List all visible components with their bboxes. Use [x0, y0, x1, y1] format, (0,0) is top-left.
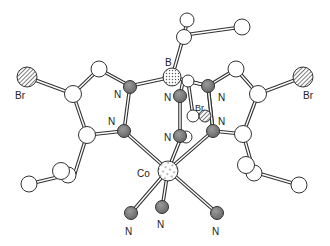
carbon-atom: [250, 86, 267, 103]
label-n-bottom-left: N: [125, 226, 132, 237]
bromine-atom-right: [293, 67, 313, 87]
nitrogen-atom: [211, 207, 224, 220]
carbon-atom: [228, 61, 244, 77]
carbon-atom: [21, 176, 37, 192]
carbon-atom: [65, 86, 82, 103]
label-n-right-upper: N: [218, 92, 225, 103]
label-n-center-upper: N: [164, 92, 171, 103]
label-br-center: Br: [195, 103, 204, 113]
carbon-atom: [235, 126, 252, 143]
carbon-atom: [79, 127, 96, 144]
bromine-atom-left: [17, 67, 37, 87]
bonds: [27, 22, 303, 213]
carbon-atom: [180, 13, 194, 27]
label-n-center-lower: N: [164, 132, 171, 143]
carbon-atom: [238, 157, 255, 174]
carbon-atom: [53, 163, 70, 180]
label-n-bottom-right: N: [212, 226, 219, 237]
label-n-right-lower: N: [218, 116, 225, 127]
molecule-diagram: B Co Br Br Br N N N N N N N N N: [0, 0, 330, 246]
boron-atom: [163, 68, 181, 86]
nitrogen-atom: [174, 130, 187, 143]
carbon-atom: [177, 30, 192, 45]
label-br-right: Br: [303, 90, 314, 101]
cobalt-atom: [158, 161, 178, 181]
label-boron: B: [165, 57, 172, 68]
nitrogen-atom: [202, 80, 215, 93]
label-br-left: Br: [15, 90, 26, 101]
carbon-atom: [291, 177, 307, 193]
nitrogen-atom: [156, 201, 169, 214]
carbon-atom: [234, 19, 250, 35]
nitrogen-atom: [124, 81, 137, 94]
label-n-left-lower: N: [108, 116, 115, 127]
label-cobalt: Co: [137, 168, 150, 179]
carbon-atom: [91, 61, 107, 77]
nitrogen-atom: [125, 207, 138, 220]
label-n-bottom-center: N: [157, 219, 164, 230]
carbon-atom: [182, 75, 194, 87]
label-n-left-upper: N: [114, 89, 121, 100]
nitrogen-atom: [118, 125, 131, 138]
nitrogen-atom: [174, 90, 187, 103]
